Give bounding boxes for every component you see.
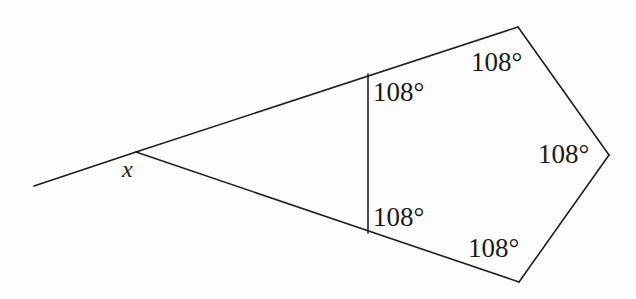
pentagon-upper-right-side xyxy=(518,27,609,155)
upper-arm-line xyxy=(136,27,518,152)
geometry-figure: 108° 108° 108° 108° 108° x xyxy=(0,0,636,299)
angle-label-bottom-right: 108° xyxy=(468,235,519,262)
angle-label-right: 108° xyxy=(538,141,589,168)
angle-label-top-right: 108° xyxy=(471,49,522,76)
angle-label-lower-middle: 108° xyxy=(373,204,424,231)
pentagon-lower-right-side xyxy=(519,155,609,282)
angle-label-upper-middle: 108° xyxy=(373,79,424,106)
unknown-angle-label-x: x xyxy=(122,157,133,181)
lower-arm-line xyxy=(136,152,519,282)
exterior-ray xyxy=(34,152,136,186)
